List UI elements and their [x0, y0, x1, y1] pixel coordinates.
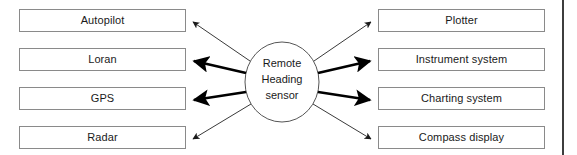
remote-heading-sensor-ellipse	[245, 42, 319, 122]
node-loran-label: Loran	[88, 54, 117, 65]
arrow-to-compass-display	[313, 104, 371, 139]
arrow-to-loran	[194, 61, 246, 73]
arrow-to-gps	[194, 92, 246, 100]
arrow-to-plotter	[314, 22, 371, 61]
node-charting-system-label: Charting system	[421, 93, 502, 104]
diagram-canvas: Remote Heading sensor Autopilot Loran GP…	[0, 0, 577, 155]
node-gps-label: GPS	[91, 93, 115, 104]
node-instrument-system-label: Instrument system	[416, 54, 508, 65]
arrow-to-radar	[193, 104, 251, 139]
node-radar-label: Radar	[87, 132, 117, 143]
node-plotter: Plotter	[378, 9, 545, 32]
node-loran: Loran	[19, 48, 186, 71]
arrow-to-instrument-system	[318, 61, 370, 73]
node-autopilot-label: Autopilot	[81, 15, 125, 26]
node-plotter-label: Plotter	[445, 15, 478, 26]
node-instrument-system: Instrument system	[378, 48, 545, 71]
node-gps: GPS	[19, 87, 186, 110]
arrow-to-autopilot	[193, 22, 250, 61]
node-charting-system: Charting system	[378, 87, 545, 110]
node-compass-display: Compass display	[378, 126, 545, 149]
node-radar: Radar	[19, 126, 186, 149]
arrow-to-charting-system	[318, 92, 370, 100]
node-autopilot: Autopilot	[19, 9, 186, 32]
page-edge-rule	[562, 0, 564, 155]
node-compass-display-label: Compass display	[419, 132, 504, 143]
